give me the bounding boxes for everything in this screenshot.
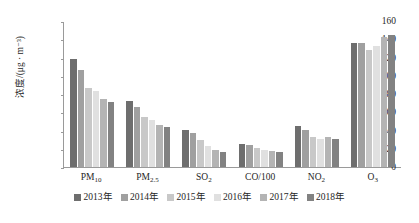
bar[interactable] (220, 152, 227, 168)
bar[interactable] (190, 133, 197, 167)
legend-label: 2015年 (177, 193, 206, 203)
legend-item[interactable]: 2014年 (121, 193, 160, 203)
legend-label: 2013年 (84, 193, 113, 203)
x-axis-label-base: PM (81, 172, 95, 182)
x-axis-label-base: SO (196, 172, 208, 182)
bar[interactable] (85, 88, 92, 167)
legend-label: 2014年 (130, 193, 159, 203)
bar[interactable] (317, 139, 324, 167)
x-axis-label-subscript: 2.5 (150, 176, 159, 184)
bar[interactable] (373, 46, 380, 167)
bar-group (289, 22, 345, 167)
bar-group (120, 22, 176, 167)
x-axis-label: NO2 (288, 172, 344, 190)
bar[interactable] (197, 140, 204, 167)
bar[interactable] (182, 130, 189, 167)
x-axis-label: PM10 (63, 172, 119, 190)
bar[interactable] (366, 50, 373, 167)
bar-group (233, 22, 289, 167)
bar[interactable] (332, 139, 339, 167)
bar[interactable] (212, 150, 219, 167)
legend-swatch-icon (167, 194, 174, 201)
bar[interactable] (141, 117, 148, 167)
legend-swatch-icon (214, 194, 221, 201)
legend-item[interactable]: 2018年 (307, 193, 346, 203)
x-axis-label: PM2.5 (119, 172, 175, 190)
legend-item[interactable]: 2015年 (167, 193, 206, 203)
x-axis-label: SO2 (176, 172, 232, 190)
bar[interactable] (269, 151, 276, 167)
bar[interactable] (149, 120, 156, 167)
bar[interactable] (276, 152, 283, 168)
bar[interactable] (164, 127, 171, 167)
legend-swatch-icon (307, 194, 314, 201)
bar[interactable] (358, 43, 365, 167)
legend-label: 2017年 (270, 193, 299, 203)
legend-label: 2018年 (316, 193, 345, 203)
x-axis-label-subscript: 10 (95, 176, 102, 184)
plot-frame: 160140120100806040200 (63, 22, 401, 168)
bar[interactable] (126, 101, 133, 167)
bar[interactable] (239, 144, 246, 167)
bar[interactable] (261, 150, 268, 167)
bar-group (64, 22, 120, 167)
legend-swatch-icon (74, 194, 81, 201)
x-axis-label-base: NO (308, 172, 322, 182)
x-axis-label-subscript: 2 (208, 176, 212, 184)
legend-item[interactable]: 2013年 (74, 193, 113, 203)
legend-item[interactable]: 2016年 (214, 193, 253, 203)
x-axis-labels: PM10PM2.5SO2CO/100NO2O3 (63, 172, 401, 190)
chart-figure: 浓度/(μg · m⁻³) 160140120100806040200 PM10… (0, 0, 419, 223)
y-axis-title: 浓度/(μg · m⁻³) (12, 12, 26, 122)
bar[interactable] (78, 70, 85, 167)
bar[interactable] (351, 43, 358, 167)
legend-label: 2016年 (223, 193, 252, 203)
bar[interactable] (310, 137, 317, 167)
bar[interactable] (302, 130, 309, 167)
bar[interactable] (325, 137, 332, 167)
x-axis-label-subscript: 2 (322, 176, 326, 184)
bar[interactable] (156, 125, 163, 167)
bar[interactable] (246, 145, 253, 167)
bar-group (176, 22, 232, 167)
legend-swatch-icon (121, 194, 128, 201)
x-axis-label: CO/100 (232, 172, 288, 190)
x-axis-label-base: PM (136, 172, 150, 182)
bar[interactable] (381, 37, 388, 167)
bar[interactable] (93, 91, 100, 167)
x-axis-label-subscript: 3 (374, 176, 378, 184)
x-axis-label: O3 (345, 172, 401, 190)
plot-area (64, 22, 401, 167)
chart-legend: 2013年2014年2015年2016年2017年2018年 (0, 193, 419, 203)
bar[interactable] (70, 59, 77, 167)
bar[interactable] (295, 126, 302, 167)
bar[interactable] (254, 148, 261, 167)
x-axis-label-base: CO/100 (245, 172, 275, 182)
bar[interactable] (100, 99, 107, 167)
legend-swatch-icon (260, 194, 267, 201)
y-tick-mark (61, 168, 64, 169)
bar[interactable] (205, 146, 212, 167)
bar[interactable] (108, 102, 115, 167)
bar-group (345, 22, 401, 167)
bar[interactable] (388, 35, 395, 167)
legend-item[interactable]: 2017年 (260, 193, 299, 203)
bar[interactable] (134, 107, 141, 167)
